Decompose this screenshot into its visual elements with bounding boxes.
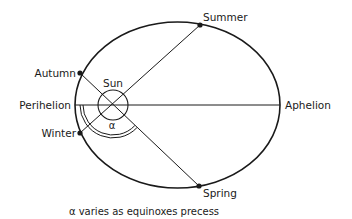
autumn-label: Autumn: [35, 67, 77, 79]
autumn-point: [77, 70, 82, 75]
solstice-line: [80, 25, 200, 133]
caption: α varies as equinoxes precess: [69, 206, 219, 217]
spring-label: Spring: [203, 187, 237, 199]
spring-point: [196, 183, 201, 188]
orbit-diagram: Sun Summer Autumn Perihelion Winter Aphe…: [0, 0, 352, 219]
winter-point: [77, 130, 82, 135]
aphelion-label: Aphelion: [285, 99, 331, 111]
perihelion-label: Perihelion: [19, 99, 71, 111]
equinox-line: [80, 73, 199, 186]
alpha-label: α: [109, 120, 116, 131]
summer-point: [197, 22, 202, 27]
winter-label: Winter: [41, 127, 76, 139]
sun-label: Sun: [103, 77, 123, 89]
summer-label: Summer: [203, 11, 248, 23]
